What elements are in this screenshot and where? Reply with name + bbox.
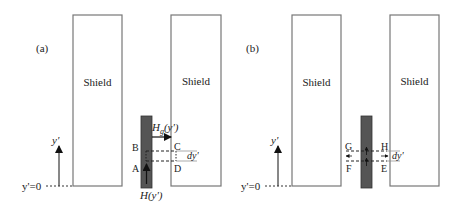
shield-left-b-label: Shield (302, 76, 331, 88)
point-a: A (132, 163, 140, 174)
dy-label-a: dy' (187, 150, 199, 161)
panel-b-label: (b) (246, 42, 259, 55)
point-d: D (174, 163, 181, 174)
diagram-canvas: (a) Shield Shield y' y'=0 H(y') Hg(y') d… (0, 0, 461, 209)
point-e: E (381, 163, 387, 174)
dy-label-b: dy' (392, 150, 404, 161)
origin-label-a: y'=0 (22, 180, 42, 192)
point-b: B (132, 142, 139, 153)
panel-a-label: (a) (36, 42, 49, 55)
y-axis-label-b: y' (270, 134, 279, 146)
shield-left-a (73, 15, 122, 186)
point-f: F (346, 163, 352, 174)
point-h: H (381, 141, 388, 152)
panel-b: (b) Shield Shield y' y'=0 dy' G F H E (241, 15, 439, 192)
shield-left-b (292, 15, 341, 186)
panel-a: (a) Shield Shield y' y'=0 H(y') Hg(y') d… (22, 15, 221, 202)
shield-left-a-label: Shield (83, 76, 112, 88)
point-g: G (345, 141, 352, 152)
y-axis-label-a: y' (51, 134, 60, 146)
h-field-label-a: H(y') (139, 189, 163, 202)
hg-field-label-a: Hg(y') (151, 121, 179, 136)
origin-label-b: y'=0 (241, 180, 261, 192)
shield-right-b-label: Shield (400, 75, 429, 87)
shield-right-a-label: Shield (182, 75, 211, 87)
point-c: C (174, 141, 181, 152)
